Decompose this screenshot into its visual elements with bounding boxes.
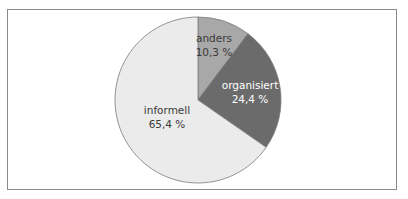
slice-value-anders: 10,3 %	[196, 46, 233, 58]
slice-label-informell: informell	[144, 104, 190, 116]
slice-label-anders: anders	[196, 32, 232, 44]
slice-label-organisiert: organisiert	[222, 79, 279, 91]
pie-chart: anders 10,3 % organisiert 24,4 % informe…	[0, 0, 408, 199]
slice-value-organisiert: 24,4 %	[232, 93, 269, 105]
slice-value-informell: 65,4 %	[149, 118, 186, 130]
